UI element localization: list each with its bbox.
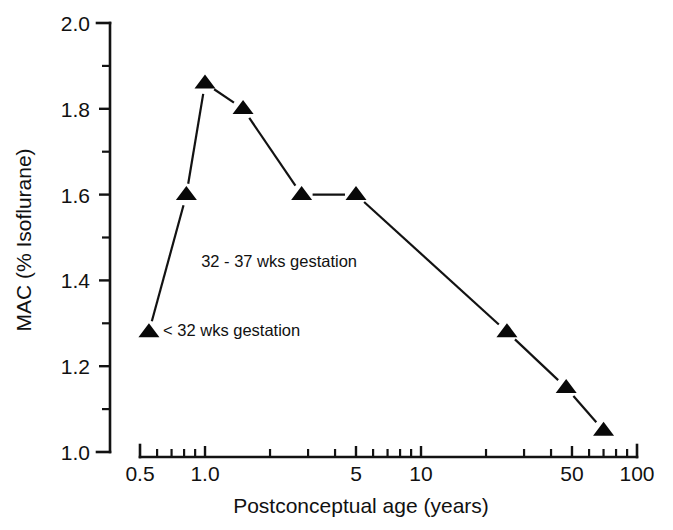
- chart-canvas: 2.01.81.61.41.21.0 0.51.051050100 32 - 3…: [0, 0, 673, 530]
- series-segment: [515, 339, 558, 380]
- chart-annotations: 32 - 37 wks gestation< 32 wks gestation: [163, 252, 357, 339]
- x-axis-title: Postconceptual age (years): [233, 494, 489, 517]
- y-tick-label: 1.0: [61, 441, 90, 464]
- chart-figure-root: 2.01.81.61.41.21.0 0.51.051050100 32 - 3…: [0, 0, 673, 530]
- x-tick-label: 100: [619, 462, 654, 485]
- chart-svg: 2.01.81.61.41.21.0 0.51.051050100 32 - 3…: [0, 0, 673, 530]
- x-tick-labels: 0.51.051050100: [125, 462, 654, 485]
- y-axis: [97, 23, 110, 452]
- data-point-marker: [345, 186, 366, 200]
- y-axis-title: MAC (% Isoflurane): [12, 148, 35, 331]
- x-tick-label: 50: [560, 462, 583, 485]
- series-segment: [188, 94, 203, 184]
- series-segment: [364, 202, 499, 324]
- data-point-marker: [138, 323, 159, 337]
- x-tick-label: 5: [350, 462, 362, 485]
- x-axis: [140, 445, 637, 457]
- y-tick-label: 1.2: [61, 355, 90, 378]
- series-segment: [152, 205, 184, 321]
- y-tick-label: 1.6: [61, 184, 90, 207]
- y-tick-label: 2.0: [61, 12, 90, 35]
- data-point-marker: [496, 323, 517, 337]
- y-tick-labels: 2.01.81.61.41.21.0: [61, 12, 91, 464]
- data-point-marker: [556, 379, 577, 393]
- data-point-marker: [195, 74, 216, 88]
- annotation-label: 32 - 37 wks gestation: [201, 252, 357, 270]
- data-point-marker: [291, 186, 312, 200]
- x-tick-label: 10: [409, 462, 432, 485]
- series-segment: [214, 89, 234, 102]
- x-tick-label: 0.5: [125, 462, 154, 485]
- data-point-marker: [176, 186, 197, 200]
- series-segment: [573, 396, 596, 422]
- series-segment: [249, 118, 295, 186]
- data-point-marker: [593, 422, 614, 436]
- y-tick-label: 1.8: [61, 98, 90, 121]
- data-point-marker: [233, 100, 254, 114]
- annotation-label: < 32 wks gestation: [163, 321, 300, 339]
- y-tick-label: 1.4: [61, 269, 91, 292]
- x-tick-label: 1.0: [190, 462, 219, 485]
